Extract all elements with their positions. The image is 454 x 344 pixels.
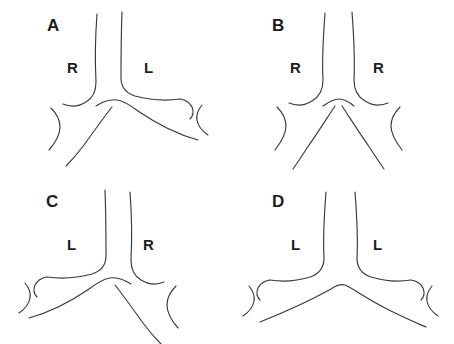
panel-a: A R L xyxy=(0,0,227,172)
panel-a-side-label-right: L xyxy=(144,60,153,75)
right-bronchus-lower-border-path xyxy=(66,107,112,166)
panel-a-label: A xyxy=(47,17,59,34)
right-upper-lobe-spur-path xyxy=(391,107,402,150)
trunk-right-wall-path xyxy=(121,12,180,100)
panel-b-side-label-right: R xyxy=(373,60,384,75)
left-lower-spur-path xyxy=(19,283,30,313)
panel-c-side-label-left: L xyxy=(67,237,76,252)
carina-apex-path xyxy=(323,99,354,106)
figure-root: A R L B R R xyxy=(0,0,454,344)
panel-d-label: D xyxy=(272,193,284,210)
right-bronchus-lower-border-path xyxy=(115,285,161,344)
panel-b-drawing xyxy=(227,0,454,172)
panel-b: B R R xyxy=(227,0,454,172)
panel-b-side-label-left: R xyxy=(290,60,301,75)
panel-d: D L L xyxy=(227,172,454,344)
right-lower-spur-path xyxy=(427,286,438,316)
trunk-right-wall-path xyxy=(355,192,411,281)
panel-b-label: B xyxy=(272,17,284,34)
left-bronchus-distal-hook-path xyxy=(34,277,47,297)
panel-c-side-label-right: R xyxy=(143,237,154,252)
left-upper-lobe-spur-path xyxy=(275,107,286,150)
panel-d-drawing xyxy=(227,172,454,344)
carina-apex-path xyxy=(29,278,131,318)
carina-apex-path xyxy=(260,285,426,327)
left-branch-distal-hook-path xyxy=(257,280,270,300)
right-branch-lower-border-path xyxy=(342,106,384,169)
right-upper-lobe-spur-path xyxy=(49,108,60,150)
left-lower-spur-path xyxy=(243,286,254,316)
left-bronchus-distal-hook-path xyxy=(180,99,193,119)
panel-c-drawing xyxy=(0,172,227,344)
panel-a-side-label-left: R xyxy=(67,60,78,75)
left-branch-lower-border-path xyxy=(293,106,335,169)
panel-d-side-label-right: L xyxy=(373,237,382,252)
right-branch-distal-hook-path xyxy=(411,280,424,300)
panel-d-side-label-left: L xyxy=(291,237,300,252)
panel-c: C L R xyxy=(0,172,227,344)
panel-a-drawing xyxy=(0,0,227,172)
right-upper-lobe-spur-path xyxy=(167,286,178,328)
carina-apex-path xyxy=(96,100,198,140)
panel-c-label: C xyxy=(46,193,58,210)
left-lower-spur-path xyxy=(197,105,208,135)
